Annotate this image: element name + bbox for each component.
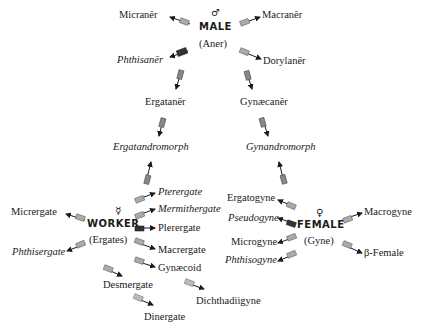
arrow-male-gynaecaner [244, 70, 252, 89]
arrow-female-phthisogyne [278, 250, 297, 261]
form-mermithergate: Mermithergate [158, 204, 221, 215]
arrow-female-beta-female [342, 241, 362, 253]
form-pseudogyne: Pseudogyne [228, 213, 279, 224]
arrow-female-gynandromorph [279, 162, 287, 184]
arrow-male-phthisaner [170, 47, 188, 57]
arrow-male-micraner [170, 17, 190, 26]
arrow-worker-gynaecoid [134, 257, 155, 267]
form-microgyne: Microgyne [231, 237, 277, 248]
female-symbol-icon: ♀ [316, 208, 323, 218]
arrow-male-dorylaner [239, 48, 261, 59]
form-beta-female: β-Female [364, 248, 404, 259]
form-ergataner: Ergatanēr [145, 97, 186, 108]
form-dorylaner: Dorylanēr [263, 56, 306, 67]
arrow-worker-ergatandromorph [144, 162, 151, 185]
arrow-worker-dichthadiigyne [184, 279, 204, 289]
form-micrergate: Micrergate [11, 207, 57, 218]
arrow-female-ergatogyne [278, 200, 296, 210]
male-title: MALE [199, 22, 232, 32]
female-title: FEMALE [297, 220, 345, 230]
arrow-worker-phthisergate [67, 240, 86, 251]
arrow-female-macrogyne [343, 213, 362, 223]
arrow-female-microgyne [278, 233, 297, 243]
arrow-gynaecaner-gynandromorph [259, 117, 268, 136]
form-macrogyne: Macrogyne [364, 207, 412, 218]
arrow-worker-dinergate [133, 294, 153, 305]
form-pterergate: Pterergate [158, 187, 202, 198]
arrow-ergataner-ergatandromorph [159, 118, 166, 136]
worker-subtitle: (Ergates) [89, 235, 127, 246]
form-gynaecaner: Gynæcanēr [240, 97, 288, 108]
male-subtitle: (Aner) [199, 39, 227, 50]
arrow-female-pseudogyne [278, 218, 296, 227]
arrows-layer [0, 0, 422, 330]
form-ergatogyne: Ergatogyne [227, 193, 275, 204]
arrow-worker-macrergate [134, 238, 155, 249]
form-gynandromorph: Gynandromorph [246, 142, 316, 153]
form-micraner: Micranēr [119, 10, 157, 21]
form-macrergate: Macrergate [158, 245, 206, 256]
form-dichthadiigyne: Dichthadiigyne [196, 296, 261, 307]
worker-title: WORKER [87, 219, 140, 229]
arrow-worker-micrergate [66, 214, 85, 222]
arrow-male-macraner [240, 17, 260, 26]
arrow-worker-desmergate [103, 265, 122, 276]
worker-symbol-icon: ☿ [115, 206, 121, 216]
arrow-male-ergataner [176, 70, 184, 89]
form-ergatandromorph: Ergatandromorph [113, 142, 189, 153]
form-phthisogyne: Phthisogyne [225, 255, 277, 266]
male-symbol-icon: ♂ [211, 8, 220, 18]
form-dinergate: Dinergate [144, 312, 185, 323]
form-phthisergate: Phthisergate [12, 247, 65, 258]
form-phthisaner: Phthisanēr [117, 55, 163, 66]
female-subtitle: (Gyne) [304, 236, 334, 247]
arrow-worker-pterergate [135, 193, 155, 203]
form-plerergate: Plerergate [158, 223, 200, 234]
form-gynaecoid: Gynæcoid [158, 263, 201, 274]
form-macraner: Macranēr [262, 10, 302, 21]
form-desmergate: Desmergate [103, 280, 153, 291]
